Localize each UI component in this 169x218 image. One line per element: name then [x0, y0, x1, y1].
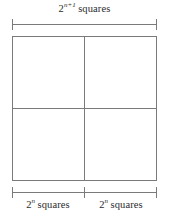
- bottom-left-label-base: 2: [26, 199, 31, 210]
- bottom-right-dimension-label: 2nsquares: [85, 200, 157, 211]
- top-label-word: squares: [78, 3, 110, 14]
- top-dimension-bracket: [12, 19, 157, 30]
- bottom-bracket-tick-right: [156, 187, 157, 198]
- quadrant-bottom-left: [13, 109, 84, 180]
- quadrant-top-left: [13, 37, 84, 108]
- bottom-right-label-exponent: n: [105, 197, 109, 205]
- bottom-bracket-tick-middle: [84, 187, 85, 198]
- top-bracket-tick-left: [12, 19, 13, 30]
- bottom-left-label-exponent: n: [32, 197, 36, 205]
- outer-square: [12, 36, 157, 181]
- top-bracket-tick-right: [156, 19, 157, 30]
- top-dimension-label: 2n+1squares: [0, 4, 169, 15]
- bottom-left-dimension-label: 2nsquares: [12, 200, 84, 211]
- top-label-exponent: n+1: [64, 1, 76, 9]
- quadrant-bottom-right: [85, 109, 156, 180]
- bottom-left-label-word: squares: [38, 199, 70, 210]
- bottom-right-label-word: squares: [111, 199, 143, 210]
- quadrant-top-right: [85, 37, 156, 108]
- horizontal-divider-line: [13, 108, 156, 109]
- bottom-right-label-base: 2: [99, 199, 104, 210]
- bottom-bracket-tick-left: [12, 187, 13, 198]
- geometric-diagram: 2n+1squares 2nsquares 2nsquares: [0, 0, 169, 218]
- top-bracket-rule: [12, 24, 157, 25]
